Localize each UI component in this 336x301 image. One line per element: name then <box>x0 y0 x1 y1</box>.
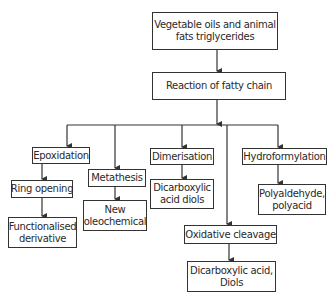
node-polyald-line1: Polyaldehyde, <box>259 188 325 200</box>
node-root: Vegetable oils and animal fats triglycer… <box>152 12 278 50</box>
node-reaction: Reaction of fatty chain <box>152 72 286 100</box>
node-dicarb-acid-line2: Diols <box>220 277 243 289</box>
node-dicarb-diols-line2: acid diols <box>160 194 204 206</box>
node-new-oleo-line2: oleochemical <box>84 216 146 228</box>
node-hydroformylation: Hydroformylation <box>242 148 327 165</box>
node-functionalised-line1: Functionalised <box>9 221 77 233</box>
node-epoxidation: Epoxidation <box>32 147 90 164</box>
node-root-line1: Vegetable oils and animal <box>154 19 276 31</box>
node-dicarboxylic-acid-diols: Dicarboxylic acid diols <box>150 179 214 209</box>
node-metathesis: Metathesis <box>88 169 146 187</box>
node-hydroformylation-label: Hydroformylation <box>243 151 325 163</box>
node-reaction-label: Reaction of fatty chain <box>166 80 272 92</box>
node-metathesis-label: Metathesis <box>91 172 142 184</box>
node-ring-opening: Ring opening <box>11 180 73 198</box>
node-polyaldehyde-polyacid: Polyaldehyde, polyacid <box>258 184 326 215</box>
node-root-line2: fats triglycerides <box>176 31 255 43</box>
node-ring-opening-label: Ring opening <box>11 183 73 195</box>
node-new-oleochemical: New oleochemical <box>83 200 147 231</box>
node-oxidative-cleavage: Oxidative cleavage <box>184 225 277 244</box>
node-functionalised-derivative: Functionalised derivative <box>8 217 77 248</box>
node-dimerisation: Dimerisation <box>150 148 214 165</box>
node-oxidative-cleavage-label: Oxidative cleavage <box>185 229 276 241</box>
node-new-oleo-line1: New <box>105 204 126 216</box>
node-dicarboxylic-acid-diols-final: Dicarboxylic acid, Diols <box>187 261 276 292</box>
node-functionalised-line2: derivative <box>19 233 66 245</box>
node-epoxidation-label: Epoxidation <box>33 150 89 162</box>
node-dicarb-acid-line1: Dicarboxylic acid, <box>190 265 273 277</box>
node-dicarb-diols-line1: Dicarboxylic <box>153 182 211 194</box>
node-polyald-line2: polyacid <box>272 200 312 212</box>
node-dimerisation-label: Dimerisation <box>152 151 212 163</box>
